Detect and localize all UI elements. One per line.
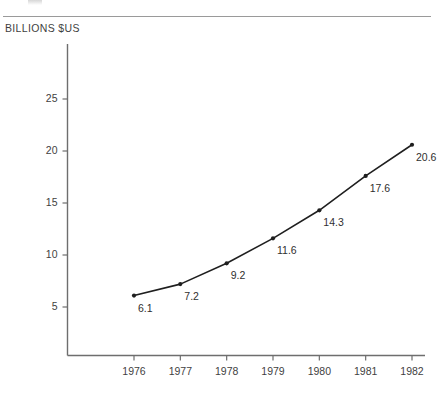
x-axis-tick-label: 1979 (251, 365, 295, 377)
data-point-value-label: 7.2 (184, 290, 199, 302)
data-point-value-label: 11.6 (277, 244, 297, 256)
line-chart-figure: BILLIONS $US 510152025 19761977197819791… (0, 0, 443, 400)
data-point-marker (410, 143, 414, 147)
data-point-value-label: 17.6 (370, 182, 390, 194)
x-axis-tick-label: 1978 (205, 365, 249, 377)
x-axis-tick-label: 1977 (158, 365, 202, 377)
data-point-marker (132, 293, 136, 297)
data-point-marker (364, 174, 368, 178)
chart-plot-area (0, 0, 443, 400)
axes-group (68, 44, 426, 356)
y-axis-tick-label: 15 (32, 196, 58, 208)
x-axis-tick-label: 1980 (297, 365, 341, 377)
data-point-value-label: 20.6 (416, 151, 436, 163)
data-point-markers-group (132, 143, 414, 298)
x-axis-tick-label: 1981 (344, 365, 388, 377)
data-series-line (134, 145, 412, 296)
data-point-marker (271, 236, 275, 240)
data-point-marker (225, 261, 229, 265)
data-point-marker (317, 208, 321, 212)
data-point-value-label: 9.2 (231, 269, 246, 281)
y-axis-tick-label: 20 (32, 144, 58, 156)
data-point-value-label: 6.1 (138, 302, 153, 314)
y-axis-tick-label: 10 (32, 248, 58, 260)
x-axis-tick-label: 1982 (390, 365, 434, 377)
y-axis-tick-label: 5 (32, 300, 58, 312)
tick-marks-group (63, 99, 413, 361)
data-point-value-label: 14.3 (323, 216, 343, 228)
data-point-marker (178, 282, 182, 286)
y-axis-tick-label: 25 (32, 92, 58, 104)
x-axis-tick-label: 1976 (112, 365, 156, 377)
